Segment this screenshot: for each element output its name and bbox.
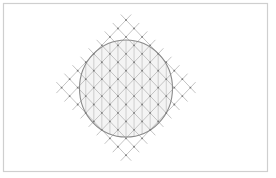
lattice-node — [141, 53, 143, 55]
lattice-node — [157, 70, 159, 72]
lattice-node — [93, 70, 95, 72]
lattice-node — [101, 95, 103, 97]
lattice-node — [133, 28, 135, 30]
lattice-node — [141, 36, 143, 38]
lattice-node — [165, 61, 167, 63]
lattice-node — [101, 61, 103, 63]
lattice-node — [157, 121, 159, 123]
lattice-node — [101, 78, 103, 80]
lattice-node — [181, 95, 183, 97]
lattice-node — [149, 78, 151, 80]
lattice-node — [109, 137, 111, 139]
lattice-node — [133, 112, 135, 114]
lattice-node — [165, 78, 167, 80]
lattice-node — [133, 129, 135, 131]
lattice-node — [125, 36, 127, 38]
lattice-node — [165, 95, 167, 97]
lattice-node — [69, 95, 71, 97]
lattice-node — [157, 87, 159, 89]
lattice-node — [109, 70, 111, 72]
lattice-node — [133, 78, 135, 80]
lattice-node — [117, 146, 119, 148]
lattice-node — [109, 87, 111, 89]
lattice-node — [141, 137, 143, 139]
lattice-node — [77, 104, 79, 106]
lattice-node — [125, 53, 127, 55]
lattice-node — [125, 104, 127, 106]
lattice-node — [173, 104, 175, 106]
lattice-node — [85, 61, 87, 63]
lattice-node — [125, 154, 127, 156]
lattice-node — [69, 78, 71, 80]
lattice-node — [125, 137, 127, 139]
lattice-node — [77, 87, 79, 89]
lattice-node — [109, 53, 111, 55]
lattice-node — [133, 146, 135, 148]
lattice-node — [141, 70, 143, 72]
lattice-node — [101, 44, 103, 46]
lattice-node — [117, 78, 119, 80]
diagram-canvas — [0, 0, 276, 178]
lattice-node — [125, 19, 127, 21]
lattice-node — [181, 78, 183, 80]
lattice-node — [61, 87, 63, 89]
lattice-node — [149, 61, 151, 63]
lattice-node — [133, 44, 135, 46]
lattice-node — [117, 28, 119, 30]
lattice-node — [141, 121, 143, 123]
lattice-node — [125, 87, 127, 89]
lattice-node — [101, 129, 103, 131]
lattice-node — [77, 70, 79, 72]
lattice-node — [117, 95, 119, 97]
lattice-node — [149, 95, 151, 97]
lattice-circle-diagram — [0, 0, 276, 178]
lattice-node — [101, 112, 103, 114]
lattice-node — [93, 121, 95, 123]
lattice-node — [93, 87, 95, 89]
lattice-node — [117, 112, 119, 114]
lattice-node — [157, 53, 159, 55]
lattice-node — [109, 36, 111, 38]
lattice-node — [117, 44, 119, 46]
lattice-node — [109, 121, 111, 123]
lattice-node — [109, 104, 111, 106]
lattice-node — [85, 112, 87, 114]
lattice-node — [117, 61, 119, 63]
lattice-node — [149, 129, 151, 131]
lattice-node — [190, 87, 192, 89]
lattice-node — [149, 44, 151, 46]
lattice-node — [93, 104, 95, 106]
lattice-node — [173, 87, 175, 89]
lattice-node — [133, 61, 135, 63]
lattice-node — [149, 112, 151, 114]
lattice-node — [125, 121, 127, 123]
lattice-node — [157, 104, 159, 106]
lattice-node — [173, 70, 175, 72]
lattice-node — [85, 95, 87, 97]
lattice-node — [117, 129, 119, 131]
lattice-node — [125, 70, 127, 72]
lattice-node — [93, 53, 95, 55]
lattice-node — [133, 95, 135, 97]
lattice-node — [85, 78, 87, 80]
lattice-node — [165, 112, 167, 114]
lattice-node — [141, 104, 143, 106]
lattice-node — [141, 87, 143, 89]
